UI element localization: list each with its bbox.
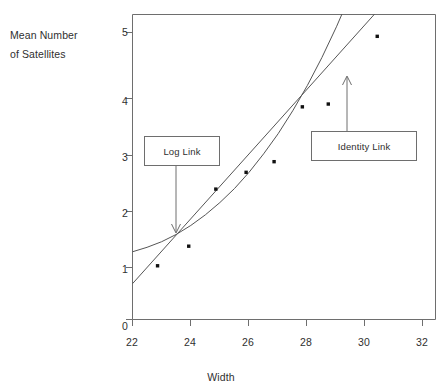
y-tick-label-5: 5 xyxy=(108,26,128,38)
y-axis-title: Mean Number of Satellites xyxy=(10,26,78,64)
log-link-curve xyxy=(133,0,354,252)
y-tick-label-0: 0 xyxy=(108,320,128,332)
x-tick-label-28: 28 xyxy=(293,336,319,348)
identity-link-arrow xyxy=(343,76,352,131)
y-tick-label-2: 2 xyxy=(108,207,128,219)
y-tick-label-4: 4 xyxy=(108,95,128,107)
x-tick-label-30: 30 xyxy=(351,336,377,348)
y-tick-label-3: 3 xyxy=(108,151,128,163)
data-point xyxy=(187,244,190,247)
log-link-arrow xyxy=(172,166,181,233)
plot-frame xyxy=(133,15,436,320)
log-link-annotation-box: Log Link xyxy=(144,136,220,166)
y-axis-title-line-2: of Satellites xyxy=(10,45,78,64)
chart-figure: Mean Number of Satellites Width 5 4 3 2 … xyxy=(0,0,442,389)
data-point xyxy=(376,35,379,38)
x-tick-label-22: 22 xyxy=(119,336,145,348)
log-link-annotation-label: Log Link xyxy=(163,146,200,157)
x-tick-label-24: 24 xyxy=(177,336,203,348)
y-tick-label-1: 1 xyxy=(108,263,128,275)
y-axis-title-line-1: Mean Number xyxy=(10,26,78,45)
data-point xyxy=(301,105,304,108)
data-point xyxy=(244,171,247,174)
identity-link-annotation-label: Identity Link xyxy=(338,141,391,152)
x-tick-marks xyxy=(133,320,423,327)
data-point xyxy=(156,264,159,267)
x-axis-title: Width xyxy=(0,368,442,387)
data-point xyxy=(327,102,330,105)
data-point xyxy=(214,187,217,190)
data-point xyxy=(272,160,275,163)
y-tick-marks xyxy=(126,33,133,320)
x-tick-label-32: 32 xyxy=(409,336,435,348)
identity-link-annotation-box: Identity Link xyxy=(311,131,417,161)
x-tick-label-26: 26 xyxy=(235,336,261,348)
